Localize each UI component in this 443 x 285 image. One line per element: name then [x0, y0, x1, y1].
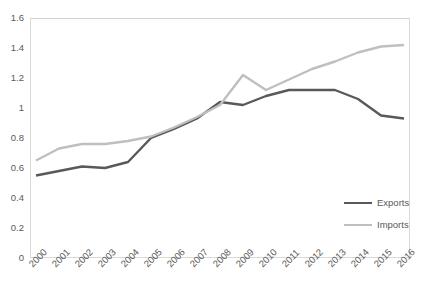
legend-line-swatch-icon	[344, 224, 372, 226]
legend-item[interactable]: Imports	[344, 214, 408, 236]
series-line-exports	[36, 90, 404, 176]
legend-line-swatch-icon	[344, 202, 372, 204]
series-paths	[36, 45, 404, 176]
chart-legend: ExportsImports	[344, 192, 408, 236]
legend-item-label: Exports	[377, 198, 409, 208]
line-chart: 00.20.40.60.811.21.41.6 2000200120022003…	[0, 0, 443, 285]
legend-item[interactable]: Exports	[344, 192, 408, 214]
legend-item-label: Imports	[377, 220, 409, 230]
series-layer	[0, 0, 443, 285]
